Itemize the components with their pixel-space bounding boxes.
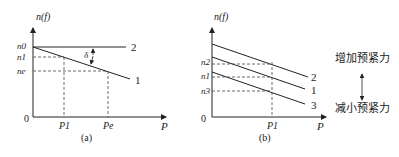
tick-pe: Pe [102, 120, 114, 131]
caption-a: (a) [81, 132, 92, 144]
guide-lines [33, 57, 108, 117]
tick-n1: n1 [201, 71, 210, 81]
tick-n1: n1 [17, 52, 26, 62]
delta-label: δ [84, 50, 89, 60]
x-axis-label: P [316, 120, 324, 132]
tick-n0: n0 [17, 41, 27, 51]
line-1 [33, 47, 130, 79]
increase-preload-label: 增加预紧力 [335, 51, 390, 65]
tick-p1: P1 [266, 120, 278, 131]
line-2-label: 2 [311, 71, 317, 83]
y-axis-label: n(f) [36, 11, 51, 23]
tick-n3: n3 [201, 86, 211, 96]
caption-b: (b) [259, 132, 271, 144]
tick-p1: P1 [58, 120, 70, 131]
tick-ne: ne [17, 66, 26, 76]
origin-label: 0 [24, 113, 29, 124]
line-2 [212, 44, 308, 77]
delta-arrow-down [91, 56, 93, 64]
line-1 [212, 57, 305, 89]
decrease-preload-label: 减小预紧力 [335, 102, 390, 115]
y-axis-label: n(f) [214, 11, 229, 23]
line-2-label: 2 [131, 41, 137, 53]
line-1-label: 1 [311, 84, 317, 96]
line-1-label: 1 [135, 74, 141, 86]
panel-b: n(f) P 0 n2 n1 n3 P1 2 1 3 (b) 增加预紧力 减小预… [201, 11, 390, 144]
x-axis-label: P [160, 120, 168, 132]
tick-n2: n2 [201, 57, 211, 67]
preload-diagram: δ n(f) P 0 n0 n1 ne P1 Pe 2 1 (a) n(f) P… [0, 0, 399, 157]
diagram-canvas: δ n(f) P 0 n0 n1 ne P1 Pe 2 1 (a) n(f) P… [0, 0, 399, 157]
line-3-label: 3 [311, 99, 317, 111]
panel-a: δ n(f) P 0 n0 n1 ne P1 Pe 2 1 (a) [17, 11, 168, 144]
origin-label: 0 [201, 113, 206, 124]
